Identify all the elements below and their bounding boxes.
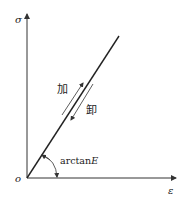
unloading-label: 卸: [86, 103, 97, 117]
x-axis-label: ε: [168, 185, 173, 196]
angle-arc-icon: [42, 155, 57, 177]
slope-var: E: [90, 155, 98, 166]
y-axis-label: σ: [15, 14, 23, 25]
slope-label: arctanE: [60, 155, 98, 166]
origin-label: o: [15, 173, 21, 184]
slope-prefix: arctan: [60, 155, 91, 166]
stress-strain-diagram: σ o ε 加 卸 arctanE: [0, 0, 185, 200]
loading-label: 加: [57, 83, 68, 96]
